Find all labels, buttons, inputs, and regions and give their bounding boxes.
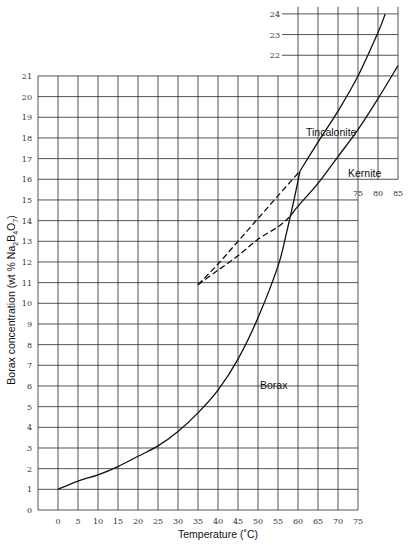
x-tick-label-inset: 75 (353, 189, 363, 198)
label-borax: Borax (260, 379, 288, 391)
curve-tincalonite (300, 14, 385, 171)
x-tick-label: 40 (213, 517, 223, 526)
x-tick-label: 10 (93, 517, 103, 526)
y-tick-label: 14 (22, 217, 32, 226)
y-tick-label: 16 (22, 175, 32, 184)
y-tick-label: 5 (27, 403, 32, 412)
y-tick-label: 4 (27, 423, 32, 432)
x-tick-label: 0 (55, 517, 60, 526)
x-tick-label: 35 (193, 517, 203, 526)
x-tick-label: 70 (333, 517, 343, 526)
y-tick-label: 12 (22, 258, 32, 267)
y-tick-label: 18 (22, 134, 32, 143)
y-tick-label: 1 (27, 485, 32, 494)
curves (58, 14, 398, 489)
x-tick-label-inset: 85 (393, 189, 403, 198)
y-tick-label-inset: 23 (270, 31, 280, 40)
x-tick-label: 60 (293, 517, 303, 526)
label-kernite: Kernite (348, 167, 381, 179)
y-tick-label: 6 (27, 382, 32, 391)
x-tick-label: 15 (113, 517, 123, 526)
curve-tincalonite-metastable (198, 171, 300, 285)
y-tick-label: 17 (22, 155, 32, 164)
y-tick-label: 8 (27, 341, 32, 350)
x-tick-label: 25 (153, 517, 163, 526)
solubility-chart: 0510152025303540455055606570757580850123… (0, 0, 411, 546)
y-tick-label: 2 (27, 465, 32, 474)
y-tick-label: 3 (27, 444, 32, 453)
y-tick-label: 0 (27, 506, 32, 515)
x-tick-label: 20 (133, 517, 143, 526)
grid-main (38, 76, 398, 510)
x-tick-label: 45 (233, 517, 243, 526)
x-tick-label: 65 (313, 517, 323, 526)
y-tick-label: 15 (22, 196, 32, 205)
grid-inset (282, 7, 398, 76)
x-tick-label: 5 (75, 517, 80, 526)
curve-borax (58, 171, 300, 489)
y-tick-label: 7 (27, 361, 32, 370)
x-tick-label-inset: 80 (373, 189, 383, 198)
y-tick-label-inset: 24 (270, 10, 280, 19)
y-tick-label: 21 (22, 72, 32, 81)
x-tick-label: 75 (353, 517, 363, 526)
y-tick-label: 20 (22, 93, 32, 102)
curve-kernite-metastable (198, 216, 290, 284)
y-tick-label: 13 (22, 237, 32, 246)
tick-labels: 0510152025303540455055606570757580850123… (22, 10, 403, 526)
y-tick-label: 19 (22, 113, 32, 122)
label-tincalonite: Tincalonite (306, 126, 357, 138)
y-tick-label: 11 (22, 279, 32, 288)
x-tick-label: 50 (253, 517, 263, 526)
y-tick-label: 9 (27, 320, 32, 329)
x-axis-title: Temperature (˚C) (178, 528, 258, 540)
y-tick-label: 10 (22, 299, 32, 308)
y-axis-title: Borax concentration (wt % Na2B4O7) (5, 215, 19, 384)
x-tick-label: 55 (273, 517, 283, 526)
y-tick-label-inset: 22 (270, 51, 280, 60)
x-tick-label: 30 (173, 517, 183, 526)
